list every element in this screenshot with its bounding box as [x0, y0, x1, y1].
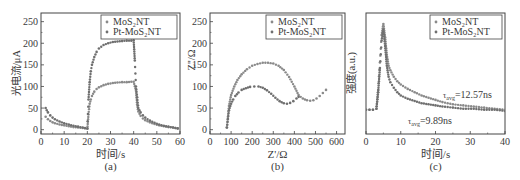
legend: MoS₂NTPt-MoS₂NT: [101, 15, 177, 39]
panel-label: (a): [104, 160, 117, 173]
x-axis-label: 时间/s: [421, 148, 450, 160]
x-tick-label: 10: [396, 136, 406, 147]
legend-marker-icon: [106, 31, 109, 34]
y-tick-label: 250: [23, 16, 38, 27]
figure: 0102030405060050100150200250时间/s(a)光电流/μ…: [0, 0, 520, 180]
y-tick-label: 50: [28, 103, 38, 114]
x-axis-label: 时间/s: [96, 148, 125, 160]
x-axis-label: Z'/Ω: [268, 148, 288, 160]
y-tick-label: 250: [192, 16, 207, 27]
x-tick-label: 40: [500, 136, 510, 147]
y-tick-label: 200: [192, 38, 207, 49]
x-tick-label: 10: [59, 136, 69, 147]
legend: MoS₂NTPt-MoS₂NT: [266, 15, 342, 39]
y-tick-label: 200: [23, 38, 38, 49]
y-tick-label: 100: [23, 81, 38, 92]
x-tick-label: 40: [129, 136, 139, 147]
y-tick-label: 100: [192, 81, 207, 92]
legend: MoS₂NTPt-MoS₂NT: [430, 15, 502, 39]
x-tick-label: 0: [208, 136, 213, 147]
x-tick-label: 200: [245, 136, 260, 147]
y-tick-label: 50: [197, 103, 207, 114]
legend-entry: Pt-MoS₂NT: [442, 26, 490, 37]
x-tick-label: 20: [431, 136, 441, 147]
x-tick-label: 300: [266, 136, 281, 147]
y-tick-label: 0: [202, 124, 207, 135]
legend-marker-icon: [271, 31, 274, 34]
x-tick-label: 60: [175, 136, 185, 147]
data-points: [44, 39, 179, 130]
legend-entry: Pt-MoS₂NT: [278, 26, 326, 37]
panel-label: (c): [429, 160, 442, 173]
x-tick-label: 30: [106, 136, 116, 147]
panel-label: (b): [271, 160, 284, 173]
x-tick-label: 400: [287, 136, 302, 147]
y-axis-label: 光电流/μA: [10, 50, 22, 97]
legend-marker-icon: [435, 31, 438, 34]
lifetime-annotation: τavg=12.57ns: [443, 89, 492, 101]
x-tick-label: 500: [308, 136, 323, 147]
x-tick-label: 0: [39, 136, 44, 147]
legend-marker-icon: [271, 21, 274, 24]
y-axis-label: 强度(a.u.): [345, 51, 358, 94]
data-points: [226, 61, 328, 128]
x-tick-label: 100: [224, 136, 239, 147]
x-tick-label: 50: [152, 136, 162, 147]
panel-a-photocurrent-chart: 0102030405060050100150200250时间/s(a)光电流/μ…: [10, 13, 185, 173]
x-tick-label: 600: [329, 136, 344, 147]
panel-c-fluorescence-decay-chart: 010203040时间/s(c)强度(a.u.)MoS₂NTPt-MoS₂NTτ…: [345, 13, 510, 173]
lifetime-annotation: τavg=9.89ns: [408, 115, 452, 127]
y-tick-label: 0: [33, 124, 38, 135]
y-tick-label: 150: [23, 59, 38, 70]
x-tick-label: 30: [465, 136, 475, 147]
x-tick-label: 20: [82, 136, 92, 147]
x-tick-label: 0: [364, 136, 369, 147]
legend-entry: Pt-MoS₂NT: [113, 26, 161, 37]
panel-b-nyquist-chart: 0100200300400500600050100150200250Z'/Ω(b…: [186, 13, 345, 173]
legend-marker-icon: [435, 21, 438, 24]
legend-marker-icon: [106, 21, 109, 24]
y-axis-label: Z''/Ω: [186, 49, 197, 70]
